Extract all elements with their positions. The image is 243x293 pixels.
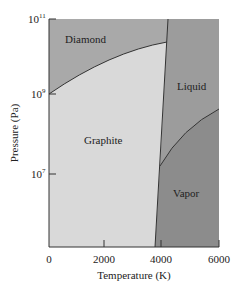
- x-axis-title: Temperature (K): [97, 269, 171, 282]
- y-axis-title: Pressure (Pa): [8, 103, 21, 162]
- region-label-vapor: Vapor: [173, 187, 200, 199]
- y-tick-label-7: 107: [31, 167, 46, 180]
- x-tick-label-2000: 2000: [93, 253, 116, 265]
- region-label-diamond: Diamond: [65, 33, 106, 45]
- region-label-graphite: Graphite: [84, 134, 123, 146]
- y-tick-label-11: 1011: [28, 12, 46, 25]
- region-label-liquid: Liquid: [177, 80, 207, 92]
- y-tick-label-9: 109: [31, 87, 46, 100]
- x-tick-label-0: 0: [46, 253, 52, 265]
- phase-diagram: 1011 109 107 0 2000 4000 6000 Temperatur…: [0, 0, 243, 293]
- x-tick-label-6000: 6000: [208, 253, 231, 265]
- x-tick-label-4000: 4000: [150, 253, 173, 265]
